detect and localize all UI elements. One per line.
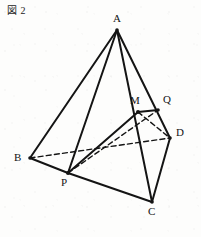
vertex-dot-A [115,28,119,32]
figure-container: 図 2 A B [0,0,201,237]
vertex-dot-P [66,171,70,175]
vertex-dot-M [136,110,140,114]
vertex-dot-B [28,156,32,160]
edge-B-D [30,138,170,158]
edge-A-D [117,30,170,138]
vertex-label-D: D [176,127,184,138]
vertex-label-P: P [61,177,67,188]
vertex-label-Q: Q [163,94,171,105]
vertex-label-M: M [130,95,140,106]
geometry-diagram [0,0,201,237]
edge-C-D [152,138,170,202]
vertex-dot-Q [156,108,160,112]
vertex-label-B: B [14,152,21,163]
vertex-label-A: A [113,13,121,24]
edge-A-B [30,30,117,158]
edge-M-D [138,112,170,138]
hidden-edges-group [30,110,170,173]
edge-P-C [68,173,152,202]
vertex-label-C: C [148,206,155,217]
vertex-dot-C [150,200,154,204]
vertex-dot-D [168,136,172,140]
edge-B-P [30,158,68,173]
